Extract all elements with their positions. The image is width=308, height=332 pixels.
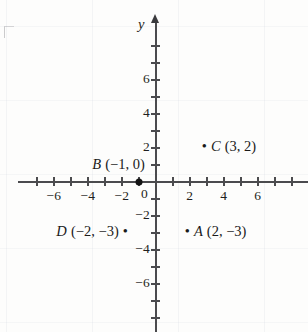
x-axis-tick bbox=[70, 177, 72, 186]
x-axis-tick-label: 4 bbox=[220, 188, 227, 204]
point-label-d: D (−2, −3)• bbox=[56, 223, 127, 240]
y-axis-tick bbox=[151, 164, 160, 166]
point-label-a: •A (2, −3) bbox=[185, 223, 247, 240]
x-axis-tick bbox=[121, 177, 123, 186]
x-axis-tick bbox=[36, 177, 38, 186]
point-name: D bbox=[56, 223, 67, 239]
x-axis-tick-label: −6 bbox=[47, 188, 62, 204]
y-axis-tick bbox=[151, 215, 160, 217]
y-axis-tick-label: 4 bbox=[104, 105, 150, 121]
y-axis-arrowhead-icon bbox=[151, 14, 159, 23]
x-axis-tick bbox=[240, 177, 242, 186]
y-axis-tick bbox=[151, 198, 160, 200]
point-name: A bbox=[194, 223, 203, 239]
x-axis-tick-label: −4 bbox=[81, 188, 96, 204]
y-axis-tick-label: −6 bbox=[104, 275, 150, 291]
x-axis-tick-label: −2 bbox=[115, 188, 130, 204]
point-name: C bbox=[211, 138, 221, 154]
y-axis-tick bbox=[151, 300, 160, 302]
point-label-c: •C (3, 2) bbox=[202, 138, 256, 155]
y-axis-tick-label: 2 bbox=[104, 139, 150, 155]
point-coordinates: (−1, 0) bbox=[102, 156, 145, 172]
plotted-point-b bbox=[135, 178, 142, 185]
point-label-b: B (−1, 0) bbox=[92, 156, 145, 173]
x-axis-tick bbox=[274, 177, 276, 186]
y-axis-tick bbox=[151, 79, 160, 81]
y-axis-tick bbox=[151, 317, 160, 319]
origin-label: 0 bbox=[141, 186, 148, 202]
y-axis-tick bbox=[151, 45, 160, 47]
y-axis-tick-label: 6 bbox=[104, 71, 150, 87]
margin-corner-mark bbox=[4, 26, 14, 38]
y-axis-tick-label: −2 bbox=[104, 207, 150, 223]
y-axis-tick bbox=[151, 147, 160, 149]
y-axis-tick bbox=[151, 62, 160, 64]
y-axis-line bbox=[155, 22, 157, 332]
y-axis-tick bbox=[151, 249, 160, 251]
y-axis-name-label: y bbox=[138, 16, 144, 33]
y-axis-tick bbox=[151, 232, 160, 234]
point-coordinates: (3, 2) bbox=[221, 138, 256, 154]
x-axis-tick bbox=[87, 177, 89, 186]
coordinate-plane-figure: y −6−4−2246642−2−4−6 0 •A (2, −3)B (−1, … bbox=[0, 0, 308, 332]
point-bullet-icon: • bbox=[119, 223, 128, 239]
x-axis-tick bbox=[104, 177, 106, 186]
x-axis-tick-label: 2 bbox=[186, 188, 193, 204]
y-axis-tick bbox=[151, 96, 160, 98]
y-axis-tick bbox=[151, 266, 160, 268]
point-coordinates: (−2, −3) bbox=[67, 223, 118, 239]
y-axis-tick bbox=[151, 283, 160, 285]
x-axis-tick bbox=[291, 177, 293, 186]
x-axis-tick bbox=[223, 177, 225, 186]
x-axis-tick bbox=[257, 177, 259, 186]
x-axis-tick-label: 6 bbox=[254, 188, 261, 204]
point-name: B bbox=[92, 156, 101, 172]
y-axis-tick-label: −4 bbox=[104, 241, 150, 257]
point-coordinates: (2, −3) bbox=[203, 223, 246, 239]
x-axis-tick bbox=[172, 177, 174, 186]
x-axis-tick bbox=[189, 177, 191, 186]
y-axis-tick bbox=[151, 113, 160, 115]
x-axis-line bbox=[18, 181, 308, 183]
point-bullet-icon: • bbox=[185, 223, 194, 239]
point-bullet-icon: • bbox=[202, 138, 211, 154]
y-axis-tick bbox=[151, 130, 160, 132]
x-axis-tick bbox=[206, 177, 208, 186]
x-axis-tick bbox=[53, 177, 55, 186]
